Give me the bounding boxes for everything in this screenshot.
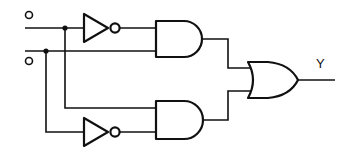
output-label-y: Y xyxy=(316,56,325,71)
wire-and2-to-or xyxy=(203,91,252,120)
and-gate-2 xyxy=(156,101,203,139)
and-gate-1 xyxy=(156,21,202,57)
not-gate-2 xyxy=(84,118,120,146)
wire-and1-to-or xyxy=(202,39,252,68)
input-b-terminal xyxy=(26,58,33,65)
input-a-terminal xyxy=(26,12,33,19)
or-gate xyxy=(248,62,298,98)
not-gate-1 xyxy=(84,14,120,42)
wire-a-to-and2 xyxy=(65,28,156,108)
logic-circuit-diagram: Y xyxy=(0,0,347,161)
